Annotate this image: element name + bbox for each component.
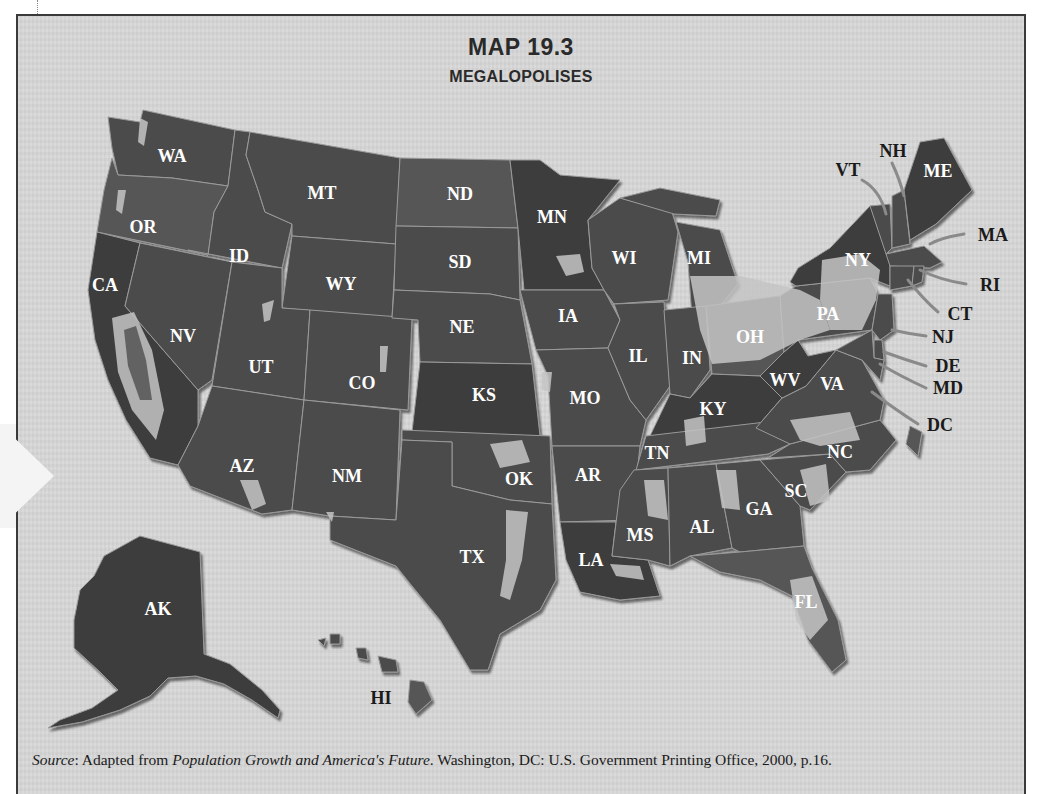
label-va: VA <box>820 374 844 394</box>
label-co: CO <box>349 373 376 393</box>
label-id: ID <box>229 246 249 266</box>
label-al: AL <box>689 517 714 537</box>
label-ut: UT <box>248 357 273 377</box>
label-pa: PA <box>817 304 840 324</box>
label-nv: NV <box>170 326 196 346</box>
source-citation: Source: Adapted from Population Growth a… <box>32 751 1022 769</box>
label-or: OR <box>130 217 158 237</box>
state-hi-maui[interactable] <box>378 656 398 672</box>
label-dc: DC <box>927 415 953 435</box>
label-mn: MN <box>537 207 567 227</box>
state-ct[interactable] <box>890 266 914 290</box>
label-ky: KY <box>700 399 727 419</box>
label-nd: ND <box>447 184 473 204</box>
source-book-title: Population Growth and America's Future <box>172 751 430 768</box>
leader-de <box>884 352 926 366</box>
label-sc: SC <box>784 481 807 501</box>
label-de: DE <box>935 356 960 376</box>
leader-ma <box>930 234 964 244</box>
label-wa: WA <box>157 146 186 166</box>
label-mi: MI <box>687 248 711 268</box>
label-az: AZ <box>229 456 254 476</box>
state-ma[interactable] <box>886 246 942 268</box>
leader-ri <box>920 270 966 284</box>
state-dc-inset[interactable] <box>906 426 922 456</box>
label-ny: NY <box>845 250 871 270</box>
label-oh: OH <box>736 327 764 347</box>
label-la: LA <box>578 550 603 570</box>
label-nj: NJ <box>932 327 954 347</box>
leader-nj <box>892 330 926 336</box>
label-ne: NE <box>449 317 474 337</box>
label-me: ME <box>924 161 953 181</box>
label-sd: SD <box>448 252 471 272</box>
state-me[interactable] <box>904 138 972 240</box>
label-ia: IA <box>558 306 578 326</box>
label-il: IL <box>628 346 647 366</box>
label-mo: MO <box>570 388 601 408</box>
state-de[interactable] <box>874 340 884 360</box>
label-md: MD <box>933 378 963 398</box>
source-text-before: : Adapted from <box>74 751 172 768</box>
label-vt: VT <box>835 160 860 180</box>
label-hi: HI <box>370 688 391 708</box>
state-hi-big-island[interactable] <box>408 680 432 714</box>
label-nc: NC <box>827 442 853 462</box>
state-nm[interactable] <box>292 400 400 520</box>
label-ar: AR <box>575 465 602 485</box>
state-hi-niihau[interactable] <box>318 638 326 646</box>
label-ct: CT <box>947 304 972 324</box>
label-ga: GA <box>746 499 773 519</box>
state-hi-oahu[interactable] <box>356 648 368 660</box>
label-nh: NH <box>880 141 907 161</box>
source-label: Source <box>32 751 74 768</box>
label-in: IN <box>682 348 702 368</box>
label-wi: WI <box>611 248 636 268</box>
page-tab-arrow <box>0 424 54 528</box>
label-ok: OK <box>505 469 533 489</box>
state-hi-kauai[interactable] <box>330 634 340 644</box>
label-ca: CA <box>92 275 118 295</box>
label-ma: MA <box>978 225 1008 245</box>
label-ak: AK <box>145 599 172 619</box>
leader-ct <box>908 280 938 312</box>
label-wy: WY <box>326 274 357 294</box>
leader-nh <box>892 163 904 196</box>
state-ri[interactable] <box>912 266 924 286</box>
source-text-after: . Washington, DC: U.S. Government Printi… <box>430 751 832 768</box>
label-wv: WV <box>770 370 801 390</box>
state-ak[interactable] <box>48 536 280 728</box>
label-ks: KS <box>472 385 496 405</box>
leader-md <box>880 364 926 388</box>
label-nm: NM <box>332 466 362 486</box>
label-ri: RI <box>980 275 1000 295</box>
label-fl: FL <box>794 592 817 612</box>
metro-nashville-kentucky <box>684 416 706 446</box>
label-ms: MS <box>627 525 654 545</box>
label-mt: MT <box>308 183 337 203</box>
label-tx: TX <box>459 547 484 567</box>
label-tn: TN <box>644 443 669 463</box>
state-co[interactable] <box>304 310 412 410</box>
